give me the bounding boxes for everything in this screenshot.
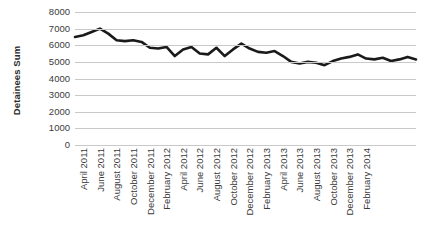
gridline — [75, 45, 416, 46]
x-axis-tick-label: October 2012 — [229, 148, 239, 206]
x-axis-tick-label: June 2012 — [195, 148, 205, 192]
y-axis-title-container: Detainees Sum — [0, 0, 34, 160]
gridline — [75, 112, 416, 113]
y-axis-tick-label: 5000 — [49, 57, 70, 67]
x-axis-tick-label: December 2012 — [245, 148, 255, 216]
gridline — [75, 62, 416, 63]
y-axis-tick-label: 4000 — [49, 74, 70, 84]
x-axis-tick-label: October 2011 — [129, 148, 139, 205]
x-axis-tick-label: February 2013 — [262, 148, 272, 210]
x-axis-tick-label: December 2011 — [146, 148, 156, 215]
plot-area — [75, 12, 416, 145]
x-axis-tick-label: August 2012 — [212, 148, 222, 201]
y-axis-tick-label: 3000 — [49, 90, 70, 100]
x-axis-tick-label: October 2013 — [329, 148, 339, 206]
y-axis-title: Detainees Sum — [12, 45, 23, 114]
x-axis-tick-label: December 2013 — [345, 148, 355, 216]
x-axis-tick-label: August 2013 — [312, 148, 322, 201]
y-axis-tick-label: 0 — [65, 140, 70, 150]
x-axis-tick-label: April 2012 — [179, 148, 189, 191]
x-axis-tick-label: June 2011 — [96, 148, 106, 192]
x-axis-tick-label: February 2014 — [362, 148, 372, 210]
gridline — [75, 79, 416, 80]
gridline — [75, 95, 416, 96]
y-axis-tick-label: 6000 — [49, 41, 70, 51]
x-axis-tick-labels: April 2011June 2011August 2011October 20… — [75, 148, 416, 243]
x-axis-tick-label: February 2012 — [162, 148, 172, 210]
y-axis-tick-label: 8000 — [49, 7, 70, 17]
detainees-sum-line-chart: Detainees Sum 01000200030004000500060007… — [0, 0, 434, 243]
gridline — [75, 145, 416, 146]
gridline — [75, 12, 416, 13]
x-axis-tick-label: April 2013 — [279, 148, 289, 191]
y-axis-tick-label: 2000 — [49, 107, 70, 117]
x-axis-tick-label: August 2011 — [112, 148, 122, 201]
gridline — [75, 128, 416, 129]
y-axis-tick-labels: 010002000300040005000600070008000 — [30, 12, 74, 145]
y-axis-tick-label: 7000 — [49, 24, 70, 34]
gridline — [75, 29, 416, 30]
x-axis-tick-label: April 2011 — [79, 148, 89, 190]
y-axis-tick-label: 1000 — [49, 124, 70, 134]
detainees-sum-line — [75, 29, 416, 66]
x-axis-tick-label: June 2013 — [295, 148, 305, 192]
